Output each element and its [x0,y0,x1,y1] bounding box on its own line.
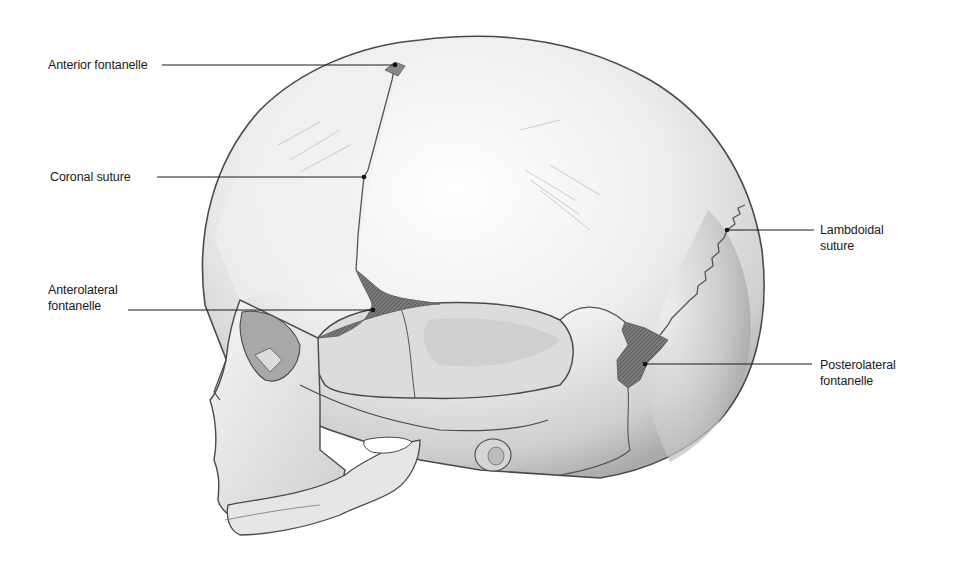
ear-meatus [475,439,511,471]
label-lambdoidal-suture: Lambdoidal suture [820,222,958,254]
label-posterolateral-fontanelle: Posterolateral fontanelle [820,357,958,389]
label-lambdoidal-line1: Lambdoidal [820,222,958,238]
label-anterior-fontanelle: Anterior fontanelle [48,57,148,73]
label-anterolateral-line1: Anterolateral [48,282,188,298]
label-lambdoidal-line2: suture [820,238,958,254]
label-coronal-suture: Coronal suture [50,169,131,185]
label-posterolateral-line1: Posterolateral [820,357,958,373]
label-posterolateral-line2: fontanelle [820,373,958,389]
temporal-bone [315,303,573,399]
label-anterolateral-fontanelle: Anterolateral fontanelle [48,282,188,314]
label-anterolateral-line2: fontanelle [48,298,188,314]
